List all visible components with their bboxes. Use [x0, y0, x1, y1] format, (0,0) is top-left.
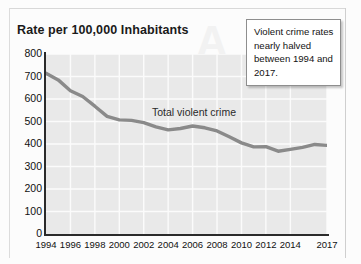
y-tick-800: 800 [2, 47, 42, 59]
x-tick-2000: 2000 [109, 239, 130, 250]
page-rule-right [345, 8, 346, 258]
x-tick-2017: 2017 [316, 239, 337, 250]
series-inline-label: Total violent crime [152, 106, 236, 118]
x-tick-2004: 2004 [158, 239, 179, 250]
page-rule-top [9, 8, 346, 9]
y-tick-500: 500 [2, 115, 42, 127]
y-axis-tick-labels: 8007006005004003002001000 [0, 0, 42, 264]
y-axis-line [44, 52, 46, 236]
x-tick-2010: 2010 [231, 239, 252, 250]
y-tick-400: 400 [2, 137, 42, 149]
y-tick-200: 200 [2, 182, 42, 194]
callout-box: Violent crime rates nearly halved betwee… [246, 19, 341, 86]
y-tick-0: 0 [2, 227, 42, 239]
y-tick-600: 600 [2, 92, 42, 104]
x-tick-2002: 2002 [133, 239, 154, 250]
x-axis-line [44, 234, 329, 236]
x-tick-2006: 2006 [182, 239, 203, 250]
y-tick-700: 700 [2, 70, 42, 82]
figure-page: A Rate per 100,000 Inhabitants 800700600… [0, 0, 361, 264]
callout-text: Violent crime rates nearly halved betwee… [254, 25, 334, 79]
y-tick-100: 100 [2, 205, 42, 217]
x-tick-1994: 1994 [35, 239, 56, 250]
chart-title: Rate per 100,000 Inhabitants [17, 23, 189, 37]
x-tick-1996: 1996 [60, 239, 81, 250]
x-tick-2008: 2008 [206, 239, 227, 250]
x-tick-2014: 2014 [280, 239, 301, 250]
y-tick-300: 300 [2, 160, 42, 172]
x-tick-1998: 1998 [84, 239, 105, 250]
x-tick-2012: 2012 [255, 239, 276, 250]
